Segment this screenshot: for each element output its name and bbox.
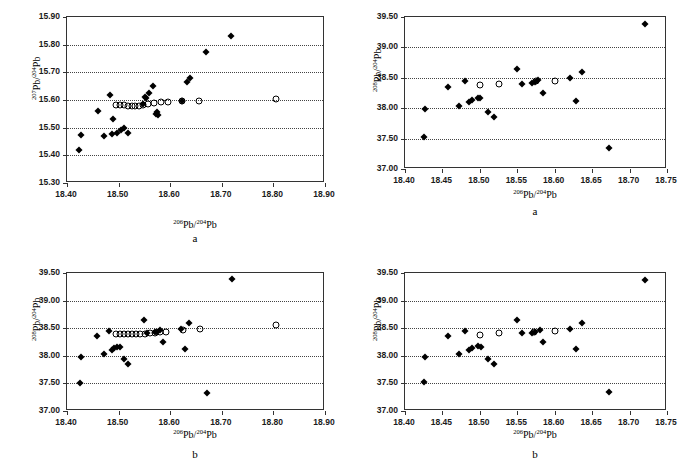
x-axis-tick <box>405 411 406 415</box>
x-axis-tick-label: 18.50 <box>468 417 489 427</box>
x-axis-tick <box>480 411 481 415</box>
y-axis-tick <box>401 383 405 384</box>
x-axis-tick-label: 18.70 <box>618 417 639 427</box>
x-axis-tick-label: 18.55 <box>506 417 527 427</box>
isotope-ratio-figure: 15.3015.4015.5015.6015.7015.8015.9018.40… <box>0 0 695 472</box>
data-point-diamond <box>566 325 573 332</box>
y-axis-tick-label: 37.50 <box>360 377 398 387</box>
x-axis-title: 206Pb/204Pb <box>513 428 556 440</box>
x-axis-tick <box>592 411 593 415</box>
data-point-diamond <box>641 276 648 283</box>
data-point-diamond <box>445 333 452 340</box>
data-point-diamond <box>485 356 492 363</box>
y-axis-tick-label: 38.00 <box>360 350 398 360</box>
x-axis-tick <box>630 411 631 415</box>
x-axis-tick-label: 18.75 <box>655 417 676 427</box>
data-point-diamond <box>513 317 520 324</box>
data-point-diamond <box>518 330 525 337</box>
data-point-circle <box>496 330 503 337</box>
y-axis-tick-label: 39.50 <box>360 267 398 277</box>
data-point-circle <box>530 328 537 335</box>
data-point-diamond <box>579 319 586 326</box>
x-axis-tick <box>555 411 556 415</box>
panel-caption: b <box>532 448 538 460</box>
y-axis-tick <box>401 301 405 302</box>
chart-panel-bottom-right: 37.0037.5038.0038.5039.0039.5018.4018.45… <box>0 0 695 472</box>
data-point-circle <box>551 327 558 334</box>
y-axis-title: 208Pb/204Pb <box>371 298 383 341</box>
gridline-horizontal <box>405 301 665 302</box>
gridline-horizontal <box>405 383 665 384</box>
x-axis-tick-label: 18.45 <box>431 417 452 427</box>
data-point-diamond <box>572 345 579 352</box>
data-point-diamond <box>491 361 498 368</box>
y-axis-tick <box>401 328 405 329</box>
plot-area <box>404 272 666 410</box>
data-point-diamond <box>421 378 428 385</box>
y-axis-tick <box>401 273 405 274</box>
x-axis-tick <box>442 411 443 415</box>
data-point-diamond <box>540 338 547 345</box>
x-axis-tick <box>667 411 668 415</box>
data-point-circle <box>476 331 483 338</box>
gridline-horizontal <box>405 356 665 357</box>
x-axis-tick-label: 18.60 <box>543 417 564 427</box>
data-point-diamond <box>422 353 429 360</box>
data-point-diamond <box>605 389 612 396</box>
x-axis-tick-label: 18.65 <box>581 417 602 427</box>
y-axis-tick <box>401 356 405 357</box>
x-axis-tick-label: 18.40 <box>393 417 414 427</box>
x-axis-tick <box>517 411 518 415</box>
y-axis-tick-label: 37.00 <box>360 405 398 415</box>
